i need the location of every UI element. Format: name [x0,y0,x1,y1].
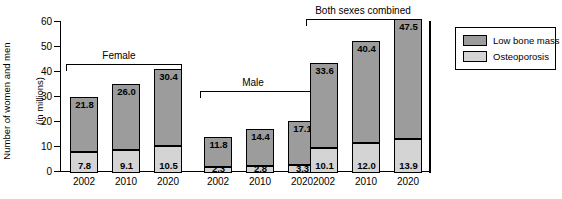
x-tick-label: 2010 [106,176,146,187]
segment-osteoporosis: 12.0 [352,143,380,173]
group-label-female: Female [64,50,174,61]
segment-low-bone-mass: 14.4 [246,129,274,166]
value-label: 11.8 [206,139,231,150]
group-label-male: Male [198,77,308,88]
y-tick-label-50: 50 [32,42,52,52]
value-label: 12.0 [354,160,379,171]
value-label: 10.5 [156,160,181,171]
value-label: 2.8 [248,163,273,174]
value-label: 47.5 [396,21,421,32]
legend-label-low-bone-mass: Low bone mass [493,34,560,47]
value-label: 30.4 [156,71,181,82]
x-tick-label: 2010 [346,176,386,187]
segment-low-bone-mass: 33.6 [310,63,338,148]
legend-label-osteoporosis: Osteoporosis [493,50,549,63]
value-label: 9.1 [114,160,139,171]
x-tick-label: 2002 [304,176,344,187]
x-tick-label: 2020 [388,176,428,187]
segment-osteoporosis: 10.5 [154,146,182,173]
y-tick-label-40: 40 [32,67,52,77]
value-label: 2.3 [206,163,231,174]
legend-swatch-osteoporosis [463,51,487,62]
x-tick-label: 2010 [240,176,280,187]
value-label: 21.8 [72,99,97,110]
bar-chart: Number of women and men (in millions) 60… [0,0,562,199]
value-label: 26.0 [114,86,139,97]
segment-osteoporosis: 2.8 [246,166,274,173]
segment-osteoporosis: 7.8 [70,152,98,173]
segment-osteoporosis: 13.9 [394,139,422,173]
legend-swatch-low-bone-mass [463,35,487,46]
y-tick-label-0: 0 [32,167,52,177]
y-tick-label-30: 30 [32,92,52,102]
plot-right-border [429,21,431,173]
segment-osteoporosis: 9.1 [112,150,140,173]
segment-low-bone-mass: 47.5 [394,19,422,139]
value-label: 33.6 [312,65,337,76]
y-tick-label-60: 60 [32,17,52,27]
value-label: 10.1 [312,160,337,171]
group-bracket-male [200,91,316,98]
y-tick-label-10: 10 [32,142,52,152]
segment-low-bone-mass: 21.8 [70,97,98,152]
value-label: 13.9 [396,160,421,171]
y-axis-title-line1: Number of women and men [1,26,12,176]
segment-osteoporosis: 2.3 [204,167,232,173]
legend: Low bone mass Osteoporosis [455,27,556,70]
segment-low-bone-mass: 30.4 [154,69,182,146]
value-label: 40.4 [354,43,379,54]
segment-low-bone-mass: 40.4 [352,41,380,143]
x-tick-label: 2002 [64,176,104,187]
value-label: 14.4 [248,131,273,142]
x-tick-label: 2002 [198,176,238,187]
value-label: 7.8 [72,160,97,171]
segment-osteoporosis: 10.1 [310,148,338,173]
segment-low-bone-mass: 26.0 [112,84,140,150]
group-label-both-sexes-combined: Both sexes combined [300,5,426,16]
x-tick-label: 2020 [148,176,188,187]
y-tick-label-20: 20 [32,117,52,127]
